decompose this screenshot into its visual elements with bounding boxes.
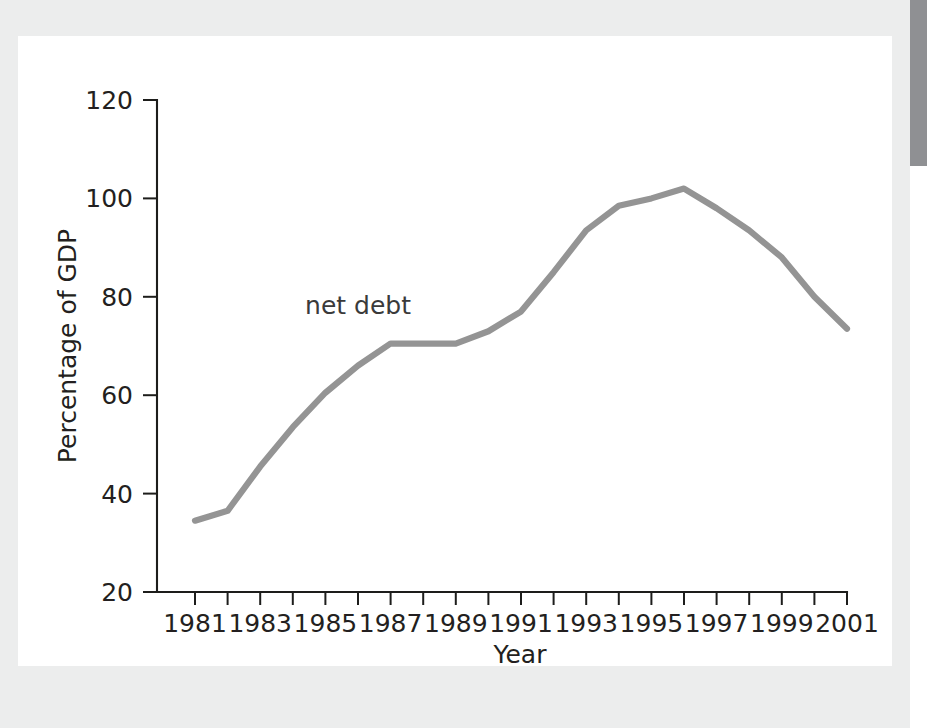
x-tick-label: 1995 (620, 609, 684, 638)
x-tick-label: 1981 (163, 609, 227, 638)
x-tick-label: 1999 (750, 609, 814, 638)
x-tick-label: 1989 (424, 609, 488, 638)
series-line-net-debt (195, 189, 847, 521)
y-tick-label: 20 (101, 578, 133, 607)
series-group (195, 189, 847, 521)
x-tick-label: 1993 (554, 609, 618, 638)
x-tick-label: 1991 (489, 609, 553, 638)
y-axis-title: Percentage of GDP (53, 229, 82, 463)
y-axis-tick-labels: 20406080100120 (85, 86, 133, 607)
series-annotation-net-debt: net debt (305, 291, 411, 320)
chart-svg: 20406080100120 1981198319851987198919911… (0, 0, 927, 728)
x-axis: 1981198319851987198919911993199519971999… (157, 592, 879, 638)
line-chart: 20406080100120 1981198319851987198919911… (0, 0, 927, 728)
x-axis-title: Year (493, 640, 548, 669)
x-axis-tick-labels: 1981198319851987198919911993199519971999… (163, 609, 879, 638)
y-tick-label: 120 (85, 86, 133, 115)
x-tick-label: 1983 (228, 609, 292, 638)
y-tick-label: 80 (101, 283, 133, 312)
x-tick-label: 1997 (685, 609, 749, 638)
y-tick-label: 100 (85, 184, 133, 213)
y-tick-label: 40 (101, 480, 133, 509)
x-tick-label: 1987 (359, 609, 423, 638)
y-axis: 20406080100120 (85, 86, 157, 607)
y-tick-label: 60 (101, 381, 133, 410)
y-axis-ticks (143, 100, 157, 592)
series-annotations: net debt (305, 291, 411, 320)
x-tick-label: 1985 (294, 609, 358, 638)
figure-page: 20406080100120 1981198319851987198919911… (0, 0, 927, 728)
x-axis-ticks (195, 592, 847, 605)
x-tick-label: 2001 (815, 609, 879, 638)
